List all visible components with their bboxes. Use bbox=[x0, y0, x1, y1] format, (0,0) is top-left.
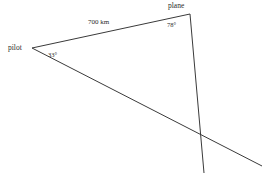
side-length-label: 700 km bbox=[88, 19, 109, 26]
diagram-canvas: pilot plane 33° 78° 700 km bbox=[0, 0, 263, 176]
vertex-label-plane: plane bbox=[168, 2, 184, 10]
segment-plane-downward bbox=[190, 14, 204, 173]
angle-label-plane: 78° bbox=[167, 22, 176, 29]
segment-pilot-downward-right bbox=[32, 48, 262, 166]
segment-pilot-to-plane bbox=[32, 14, 190, 48]
diagram-svg bbox=[0, 0, 263, 176]
angle-label-pilot: 33° bbox=[48, 52, 57, 59]
vertex-label-pilot: pilot bbox=[8, 44, 22, 52]
